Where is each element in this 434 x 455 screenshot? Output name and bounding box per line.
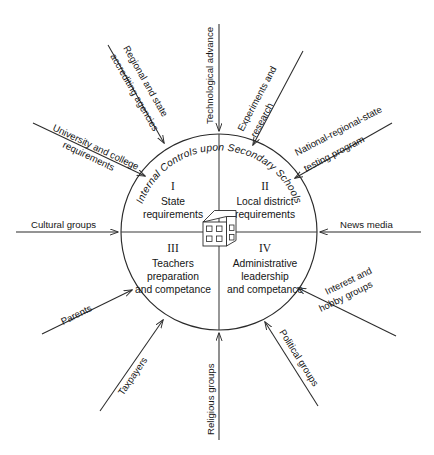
quadrant-4-line-3: and competance bbox=[227, 284, 303, 295]
label-cultural-groups: Cultural groups bbox=[31, 219, 96, 230]
force-parents: Parents bbox=[42, 290, 132, 334]
force-political-groups: Political groups bbox=[265, 322, 321, 406]
arrow-taxpayers bbox=[100, 320, 163, 411]
quadrant-4: IV Administrative leadership and competa… bbox=[227, 242, 303, 295]
quadrant-3-line-3: and competance bbox=[135, 284, 211, 295]
diagram-root: Internal Controls upon Secondary Schools… bbox=[0, 0, 434, 455]
label-news-media: News media bbox=[340, 219, 393, 230]
force-regional-and-state-accrediting-agencies: Regional and state accrediting agencies bbox=[108, 44, 170, 143]
force-taxpayers: Taxpayers bbox=[100, 320, 163, 411]
quadrant-4-line-1: Administrative bbox=[233, 258, 298, 269]
label-religious-groups: Religious groups bbox=[205, 363, 216, 435]
force-interest-and-hobby-groups: Interest and hobby groups bbox=[298, 265, 396, 336]
label-parents: Parents bbox=[59, 302, 94, 327]
quadrant-3-line-1: Teachers bbox=[152, 258, 194, 269]
force-religious-groups: Religious groups bbox=[205, 333, 219, 440]
quadrant-3-line-2: preparation bbox=[147, 271, 199, 282]
radial-influence-diagram: Internal Controls upon Secondary Schools… bbox=[0, 0, 434, 455]
quadrant-2-line-2: requirements bbox=[235, 209, 295, 220]
label-technological-advance: Technological advance bbox=[204, 27, 215, 124]
label-political-groups: Political groups bbox=[277, 327, 321, 388]
schoolhouse-icon bbox=[203, 211, 236, 247]
quadrant-1-line-2: requirements bbox=[143, 209, 203, 220]
force-national-regional-state-testing-program: National-regional-state testing program bbox=[293, 103, 392, 178]
quadrant-2-numeral: II bbox=[261, 180, 269, 192]
quadrant-4-numeral: IV bbox=[259, 242, 272, 254]
quadrant-4-line-2: leadership bbox=[241, 271, 289, 282]
quadrant-1-numeral: I bbox=[171, 180, 175, 192]
quadrant-3: III Teachers preparation and competance bbox=[135, 242, 211, 295]
force-cultural-groups: Cultural groups bbox=[16, 219, 118, 232]
force-experiments-and-research: Experiments and research bbox=[235, 51, 303, 145]
force-news-media: News media bbox=[320, 219, 421, 232]
quadrant-1-line-1: State bbox=[161, 196, 185, 207]
quadrant-2-line-1: Local district bbox=[236, 196, 293, 207]
label-taxpayers: Taxpayers bbox=[116, 355, 150, 397]
quadrant-3-numeral: III bbox=[167, 242, 179, 254]
force-technological-advance: Technological advance bbox=[204, 24, 219, 131]
force-university-and-college-requirements: University and college requirements bbox=[33, 122, 145, 176]
